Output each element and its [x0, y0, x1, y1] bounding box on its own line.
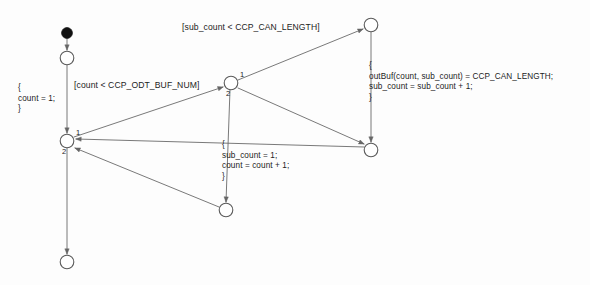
junction-center-port-1-label: 1 [240, 71, 244, 79]
state-node-bottom-center [219, 203, 233, 217]
guard-label-can-length: [sub_count < CCP_CAN_LENGTH] [182, 22, 320, 33]
state-node-start [60, 51, 74, 65]
junction-left-port-2-label: 2 [62, 148, 66, 156]
guard-label-odt-buf-num: [count < CCP_ODT_BUF_NUM] [74, 80, 199, 91]
diagram-canvas: 1 2 1 2 [count < CCP_ODT_BUF_NUM] [sub_c… [0, 0, 590, 285]
state-node-bottom-left [60, 255, 74, 269]
action-block-outbuf: { outBuf(count, sub_count) = CCP_CAN_LEN… [369, 61, 553, 103]
initial-node [62, 28, 73, 39]
edge-junction-left-to-junction-center [74, 87, 223, 137]
edge-junction-center-to-top-right [238, 29, 363, 80]
state-node-right-middle [364, 143, 378, 157]
edge-bottom-center-to-junction-left [75, 148, 219, 207]
edge-junction-center-to-right-middle [238, 88, 364, 144]
junction-left-port-1-label: 1 [76, 129, 80, 137]
edge-right-middle-to-junction-left [76, 139, 364, 147]
junction-node-center [224, 76, 238, 90]
junction-node-left [60, 134, 74, 148]
action-block-reset-subcount: { sub_count = 1; count = count + 1; } [222, 140, 289, 182]
action-block-init-count: { count = 1; } [18, 83, 55, 115]
junction-center-port-2-label: 2 [226, 90, 230, 98]
state-diagram-graphic [0, 0, 590, 285]
state-node-top-right [364, 18, 378, 32]
